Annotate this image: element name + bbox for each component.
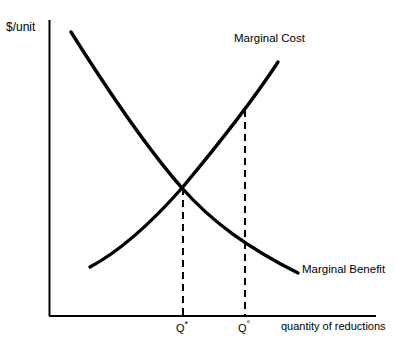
q-zero-superscript: ° [246,319,250,329]
x-tick-label-q-zero: Q° [232,320,256,334]
x-axis-label: quantity of reductions [281,321,386,332]
marginal-benefit-curve [71,32,298,273]
chart-plot-area [0,0,397,344]
marginal-benefit-label: Marginal Benefit [302,264,385,276]
q-star-base: Q [176,322,185,334]
chart-figure: $/unit quantity of reductions Marginal C… [0,0,397,344]
y-axis-label: $/unit [6,21,35,33]
marginal-cost-label: Marginal Cost [234,33,305,45]
x-tick-label-q-star: Q* [170,320,194,334]
q-star-superscript: * [185,319,189,329]
